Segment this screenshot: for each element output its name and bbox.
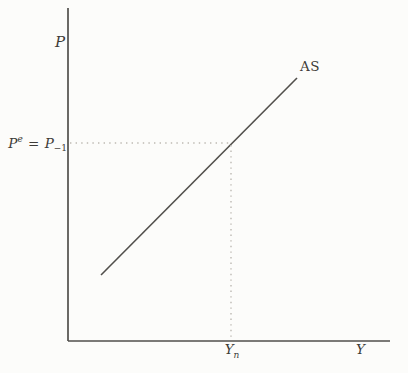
minus-one-subscript: −1 [54,143,67,153]
e-superscript: e [17,134,22,144]
as-curve-figure: P Pe = P−1 AS Yn Y [0,0,408,373]
equals-sign: = [28,135,39,151]
p-symbol-lagged: P [45,135,54,151]
output-axis-label: Y [356,343,365,357]
natural-output-label: Yn [221,343,243,360]
expected-price-label: Pe = P−1 [0,135,67,153]
n-subscript: n [234,350,240,360]
as-curve-line [101,78,297,275]
y-symbol: Y [225,341,234,357]
as-curve-chart [0,0,408,373]
price-axis-label: P [55,35,65,50]
as-curve-label: AS [300,60,320,74]
